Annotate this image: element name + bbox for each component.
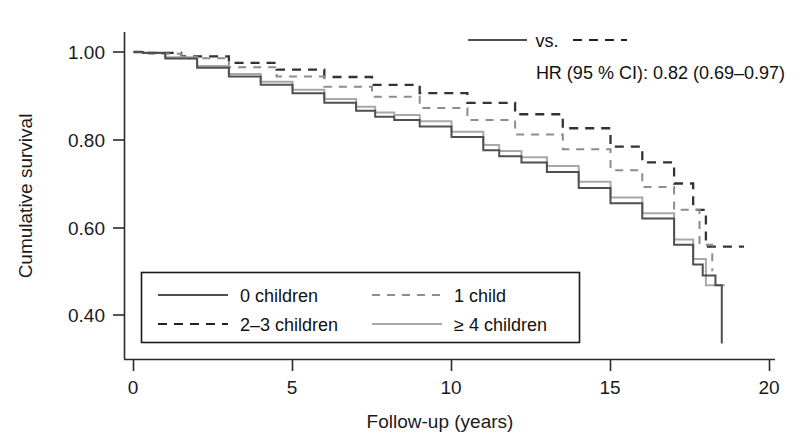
series-line-ge-4-children [134, 52, 725, 285]
x-tick-label-20: 20 [758, 377, 779, 398]
annotation-hr-text: HR (95 % CI): 0.82 (0.69–0.97) [536, 63, 785, 83]
x-tick-label-15: 15 [599, 377, 620, 398]
legend-label-0-children: 0 children [240, 286, 318, 306]
y-tick-label-0.40: 0.40 [68, 305, 105, 326]
y-axis: 1.00 0.80 0.60 0.40 Cumulative survival [15, 32, 125, 359]
x-axis: 0 5 10 15 20 Follow-up (years) [124, 360, 780, 433]
y-axis-title: Cumulative survival [15, 114, 36, 279]
annotation-vs-label: vs. [535, 31, 558, 51]
x-tick-label-10: 10 [440, 377, 461, 398]
legend-label-ge-4-children: ≥ 4 children [454, 315, 547, 335]
x-axis-title: Follow-up (years) [367, 411, 514, 432]
survival-curve-figure: 1.00 0.80 0.60 0.40 Cumulative survival … [0, 0, 800, 447]
legend-label-1-child: 1 child [454, 286, 506, 306]
chart-canvas: 1.00 0.80 0.60 0.40 Cumulative survival … [0, 0, 800, 447]
y-tick-label-0.80: 0.80 [68, 130, 105, 151]
series-line-1-child [134, 52, 713, 271]
legend: 0 children 1 child 2–3 children ≥ 4 chil… [142, 273, 580, 343]
y-tick-label-0.60: 0.60 [68, 218, 105, 239]
x-tick-label-0: 0 [128, 377, 139, 398]
y-tick-label-1.00: 1.00 [68, 42, 105, 63]
hr-annotation: vs. HR (95 % CI): 0.82 (0.69–0.97) [468, 31, 785, 83]
legend-label-2-3-children: 2–3 children [240, 315, 338, 335]
x-tick-label-5: 5 [287, 377, 298, 398]
